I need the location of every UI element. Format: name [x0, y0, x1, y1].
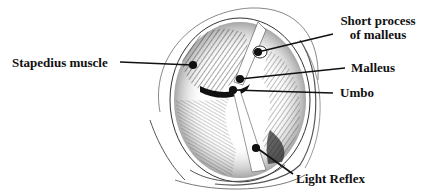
- label-short-process-line1: Short process: [335, 14, 421, 28]
- tympanic-membrane: [170, 18, 310, 182]
- umbo-dot: [230, 87, 237, 94]
- stapedius-dot: [190, 62, 197, 69]
- light-reflex-dot: [253, 145, 260, 152]
- label-short-process-of-malleus: Short process of malleus: [335, 14, 421, 42]
- malleus-dot: [237, 76, 244, 83]
- label-stapedius-muscle: Stapedius muscle: [12, 56, 108, 70]
- label-light-reflex: Light Reflex: [296, 172, 365, 186]
- short-process-dot: [255, 49, 262, 56]
- eardrum-diagram: Stapedius muscle Short process of malleu…: [0, 0, 430, 194]
- label-short-process-line2: of malleus: [335, 28, 421, 42]
- label-malleus: Malleus: [351, 61, 395, 75]
- label-umbo: Umbo: [340, 86, 374, 100]
